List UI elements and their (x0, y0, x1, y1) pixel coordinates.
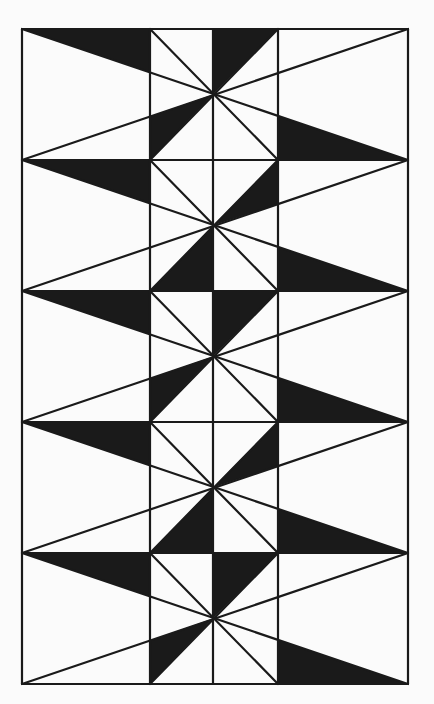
quilt-pattern-diagram (0, 0, 434, 704)
